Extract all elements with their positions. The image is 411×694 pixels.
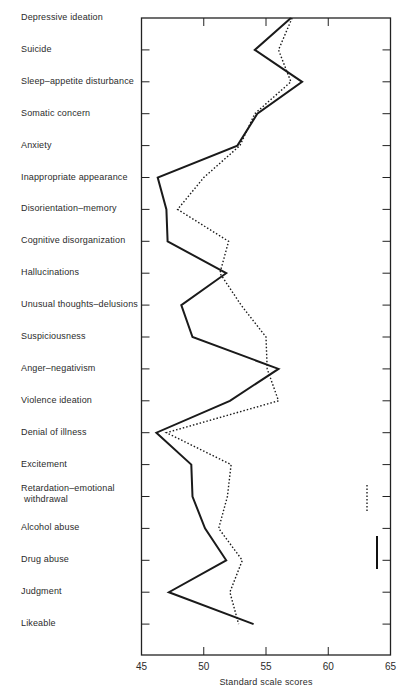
category-label: Suspiciousness [21, 331, 86, 342]
category-label: Somatic concern [21, 108, 90, 119]
category-label: Judgment [21, 586, 62, 597]
category-label: Denial of illness [21, 427, 87, 438]
data-series [156, 18, 302, 624]
category-label: Anxiety [21, 140, 52, 151]
category-label: Drug abuse [21, 554, 69, 565]
category-label: Anger–negativism [21, 363, 95, 374]
x-tick-label: 65 [385, 661, 396, 672]
x-tick-label: 60 [323, 661, 334, 672]
category-label: Violence ideation [21, 395, 92, 406]
category-label: Alcohol abuse [21, 522, 80, 533]
category-label: Excitement [21, 459, 67, 470]
dotted-series-line [166, 18, 292, 624]
category-label: Depressive ideation [21, 12, 103, 23]
x-tick-label: 55 [260, 661, 271, 672]
category-label: Sleep–appetite disturbance [21, 76, 134, 87]
x-tick-label: 45 [136, 661, 147, 672]
x-axis-title: Standard scale scores [219, 677, 312, 687]
category-label: Likeable [21, 618, 56, 629]
category-label: Hallucinations [21, 267, 79, 278]
category-label: Inappropriate appearance [21, 172, 128, 183]
legend-marks [367, 485, 377, 569]
category-label: Cognitive disorganization [21, 235, 125, 246]
category-label: Retardation–emotional withdrawal [21, 483, 115, 505]
x-tick-label: 50 [198, 661, 209, 672]
category-label: Disorientation–memory [21, 203, 117, 214]
solid-series-line [156, 18, 302, 624]
category-label: Unusual thoughts–delusions [21, 299, 138, 310]
category-label: Suicide [21, 44, 52, 55]
